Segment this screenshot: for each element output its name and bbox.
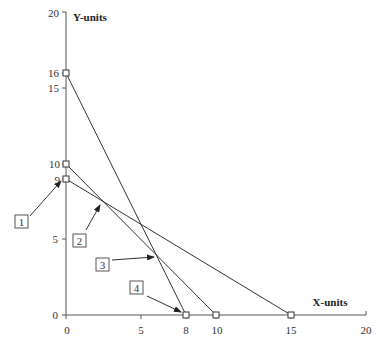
x-tick-label: 8	[183, 324, 189, 336]
svg-text:2: 2	[77, 235, 83, 247]
x-ticks	[66, 315, 291, 319]
chart: 0 5 9 10 15 16 20 0 5 8 10 15 20 Y-units…	[0, 0, 378, 348]
marker-0-16	[63, 70, 69, 76]
x-tick-label: 15	[286, 324, 298, 336]
callout-1: 1	[15, 181, 61, 228]
marker-15-0	[288, 312, 294, 318]
y-tick-label: 0	[53, 309, 59, 321]
marker-0-10	[63, 161, 69, 167]
y-tick-label: 10	[49, 158, 61, 170]
y-axis-title: Y-units	[73, 11, 108, 23]
y-tick-label: 16	[48, 67, 60, 79]
callout-4: 4	[130, 281, 181, 312]
x-tick-label: 5	[138, 324, 144, 336]
callout-3: 3	[96, 257, 154, 271]
marker-10-0	[213, 312, 219, 318]
y-tick-label: 5	[53, 233, 59, 245]
marker-0-9	[63, 176, 69, 182]
x-tick-label: 0	[64, 324, 70, 336]
x-tick-label: 20	[361, 324, 373, 336]
data-markers	[63, 70, 294, 318]
svg-text:1: 1	[19, 216, 25, 228]
y-ticks	[62, 73, 66, 315]
x-tick-label: 10	[212, 324, 224, 336]
line-16-8	[66, 73, 186, 315]
svg-text:3: 3	[100, 259, 106, 271]
line-9-15	[66, 179, 291, 315]
callout-2: 2	[73, 205, 100, 247]
x-axis-title: X-units	[313, 296, 349, 308]
marker-8-0	[183, 312, 189, 318]
y-tick-label: 15	[48, 82, 60, 94]
y-tick-label: 20	[48, 7, 60, 19]
svg-text:4: 4	[134, 282, 140, 294]
